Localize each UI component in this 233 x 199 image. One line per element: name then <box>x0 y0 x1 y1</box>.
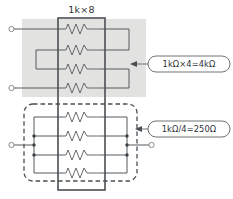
terminal-parallel-input[interactable] <box>9 142 14 147</box>
series-callout-label: 1kΩ×4=4kΩ <box>163 59 216 69</box>
series-group-highlight <box>22 19 146 97</box>
resistor-network-figure: 1k×8 1kΩ×4=4kΩ 1kΩ/4=250Ω <box>0 0 233 199</box>
junction-dot-left-mid <box>32 143 35 146</box>
junction-dot-left-p2 <box>32 134 35 137</box>
package-title: 1k×8 <box>68 4 95 15</box>
terminal-series-input[interactable] <box>9 26 14 31</box>
junction-dot-right-p2 <box>125 134 128 137</box>
junction-dot-left-p3 <box>32 153 35 156</box>
resistor-symbol-p1 <box>63 112 101 122</box>
circuit-diagram-canvas: 1k×8 1kΩ×4=4kΩ 1kΩ/4=250Ω <box>0 0 233 199</box>
terminal-parallel-output[interactable] <box>149 142 154 147</box>
junction-dot-right-mid <box>125 143 128 146</box>
parallel-callout-arrowhead <box>135 126 142 132</box>
junction-dot-right-p3 <box>125 153 128 156</box>
parallel-callout-label: 1kΩ/4=250Ω <box>162 124 217 134</box>
resistor-symbol-p4 <box>63 168 101 178</box>
terminal-series-output[interactable] <box>9 85 14 90</box>
parallel-group-boundary <box>24 104 137 181</box>
resistor-symbol-p3 <box>63 150 101 160</box>
resistor-symbol-p2 <box>63 131 101 141</box>
